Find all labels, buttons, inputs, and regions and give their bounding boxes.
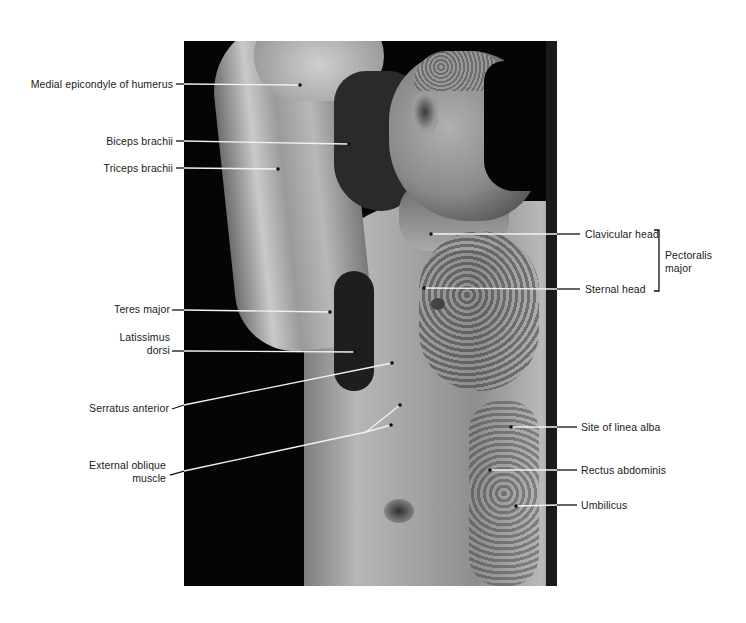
label-external-oblique-line1: External oblique (89, 459, 166, 472)
chest-hair-texture (419, 231, 539, 391)
label-latissimus-line2: dorsi (119, 344, 170, 357)
photo-right-edge (546, 41, 557, 586)
label-clavicular-head: Clavicular head (585, 228, 659, 241)
ear-region (412, 91, 438, 133)
anatomical-photograph (184, 41, 557, 586)
label-serratus-anterior: Serratus anterior (89, 402, 169, 415)
label-teres-major: Teres major (114, 303, 170, 316)
abdomen-hair-texture (469, 401, 539, 586)
label-latissimus-line1: Latissimus (119, 331, 170, 344)
nipple-mark (431, 298, 445, 310)
label-site-of-linea-alba: Site of linea alba (581, 421, 660, 434)
label-sternal-head: Sternal head (585, 283, 646, 296)
label-medial-epicondyle: Medial epicondyle of humerus (31, 78, 173, 91)
navel-shadow (384, 499, 414, 523)
label-pectoralis-major: Pectoralis major (665, 249, 712, 274)
label-triceps-brachii: Triceps brachii (104, 162, 173, 175)
label-rectus-abdominis: Rectus abdominis (581, 464, 666, 477)
label-external-oblique: External oblique muscle (89, 459, 166, 484)
label-pectoralis-line2: major (665, 262, 712, 275)
label-external-oblique-line2: muscle (89, 472, 166, 485)
label-pectoralis-line1: Pectoralis (665, 249, 712, 262)
anatomy-figure: Medial epicondyle of humerus Biceps brac… (0, 0, 746, 623)
label-biceps-brachii: Biceps brachii (106, 135, 173, 148)
label-latissimus-dorsi: Latissimus dorsi (119, 331, 170, 356)
axilla-shadow (334, 271, 374, 391)
label-umbilicus: Umbilicus (581, 499, 627, 512)
